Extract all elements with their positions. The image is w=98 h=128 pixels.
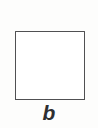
panel-label-b: b bbox=[0, 102, 98, 124]
figure-panel: b bbox=[0, 0, 98, 128]
square-outline-shape bbox=[15, 31, 85, 100]
